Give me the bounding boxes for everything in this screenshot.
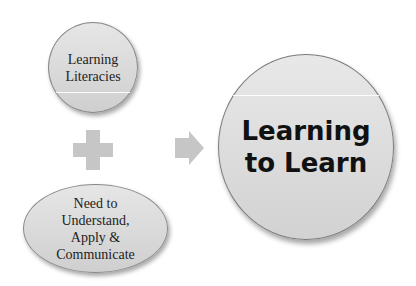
learning-literacies-label: Learning Literacies: [65, 51, 120, 85]
gloss-line: [233, 95, 379, 96]
learning-to-learn-circle: Learning to Learn: [218, 54, 394, 240]
gloss-line: [56, 92, 130, 93]
need-to-understand-label: Need to Understand, Apply & Communicate: [56, 195, 135, 263]
learning-literacies-circle: Learning Literacies: [48, 22, 138, 113]
need-to-understand-ellipse: Need to Understand, Apply & Communicate: [23, 184, 168, 273]
arrow-right-icon: [175, 131, 205, 165]
learning-to-learn-label: Learning to Learn: [241, 115, 370, 179]
